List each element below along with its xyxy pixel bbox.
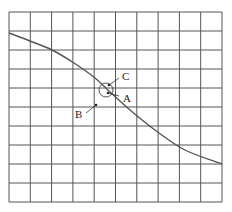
grid — [9, 12, 222, 202]
label-a: A — [123, 92, 131, 104]
leader-line-c — [109, 78, 119, 85]
diagram-canvas: A C B — [0, 0, 232, 212]
label-b: B — [75, 108, 82, 120]
highlight-circle — [99, 83, 113, 97]
point-labels: A C B — [75, 70, 131, 120]
label-c: C — [122, 70, 129, 82]
